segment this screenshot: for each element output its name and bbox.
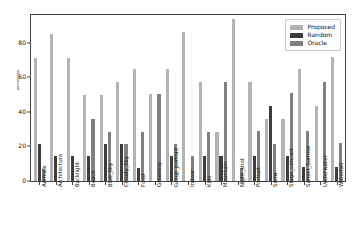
chart-legend: ProposedRandomOracle	[285, 19, 341, 51]
x-tick-label: Snow	[273, 172, 278, 187]
x-tick-label: Animals	[42, 166, 47, 187]
legend-swatch-icon	[290, 25, 303, 30]
bar-chart-figure: 020406080 percentage ProposedRandomOracl…	[0, 0, 354, 244]
x-tick-label: Greenery	[157, 162, 162, 187]
legend-label: Oracle	[307, 40, 327, 46]
x-tick-label: Sunset_Sunrise	[306, 146, 311, 187]
bar-proposed-kids	[199, 82, 202, 181]
bar-proposed-cloudy_sky	[116, 82, 119, 181]
legend-item-proposed[interactable]: Proposed	[290, 23, 335, 31]
y-tick-label: 40	[18, 109, 26, 115]
y-tick-label: 0	[22, 178, 26, 184]
plot-axes: ProposedRandomOracle	[30, 14, 346, 182]
bar-proposed-night_shot	[232, 19, 235, 181]
bar-proposed-sunset_sunrise	[298, 69, 301, 181]
x-axis: AnimalsArchitectureBacklightBeachBlue_Sk…	[30, 182, 346, 244]
legend-swatch-icon	[290, 41, 303, 46]
x-tick-label: Indoor	[190, 170, 195, 187]
x-tick-label: Night_shot	[240, 158, 245, 187]
bar-proposed-beach	[83, 95, 86, 181]
bar-proposed-stage_concert	[281, 119, 284, 181]
x-tick-label: Cloudy_Sky	[124, 156, 129, 187]
x-tick-label: Beach	[91, 170, 96, 187]
x-tick-label: Blue_Sky	[108, 163, 113, 187]
x-tick-label: Mountain	[223, 162, 228, 187]
x-tick-label: Waterfall	[339, 163, 344, 187]
bar-proposed-architecture	[50, 34, 53, 181]
x-tick-label: Underwater	[323, 155, 328, 187]
x-tick-label: Backlight	[75, 162, 80, 187]
x-tick-label: Food	[141, 174, 146, 187]
x-tick-label: Group_portrait	[174, 148, 179, 187]
bar-random-snow	[269, 106, 272, 181]
legend-label: Random	[307, 32, 332, 38]
legend-item-random[interactable]: Random	[290, 31, 335, 39]
x-tick-label: Architecture	[58, 154, 63, 187]
y-axis-label: percentage	[16, 70, 20, 90]
x-tick-label: Portrait	[256, 167, 261, 187]
y-tick-label: 80	[18, 40, 26, 46]
legend-label: Proposed	[307, 24, 335, 30]
bar-proposed-backlight	[67, 58, 70, 181]
x-tick-label: Stage_concert	[289, 148, 294, 187]
y-axis: 020406080	[0, 14, 30, 182]
x-tick-label: Kids	[207, 176, 212, 187]
bar-proposed-snow	[265, 119, 268, 181]
bar-proposed-group_portrait	[166, 69, 169, 181]
bar-proposed-portrait	[248, 82, 251, 181]
bar-proposed-blue_sky	[100, 95, 103, 181]
bar-proposed-greenery	[149, 94, 152, 181]
legend-item-oracle[interactable]: Oracle	[290, 39, 335, 47]
bar-proposed-mountain	[215, 132, 218, 181]
bar-proposed-indoor	[182, 32, 185, 181]
bar-proposed-food	[133, 69, 136, 181]
bar-proposed-waterfall	[331, 57, 334, 181]
bar-proposed-animals	[34, 58, 37, 181]
bar-proposed-underwater	[315, 106, 318, 181]
legend-swatch-icon	[290, 33, 303, 38]
y-tick-label: 20	[18, 143, 26, 149]
bar-oracle-kids	[207, 132, 210, 181]
